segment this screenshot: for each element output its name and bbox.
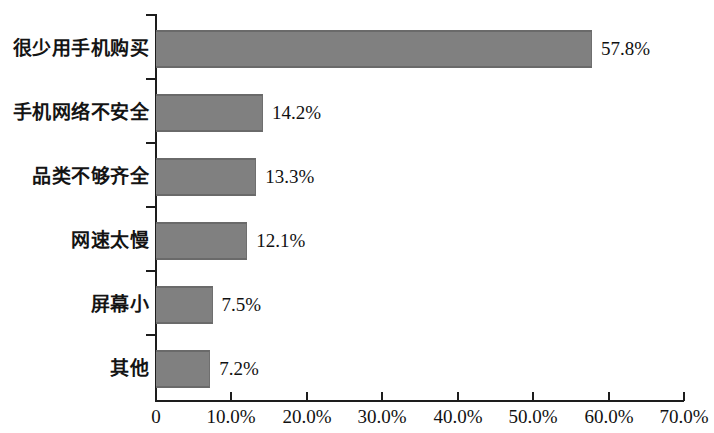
category-label: 手机网络不安全 — [13, 94, 150, 132]
x-axis-tick — [306, 392, 308, 401]
category-label: 其他 — [110, 350, 149, 388]
bar-segment[interactable] — [156, 222, 247, 260]
category-label: 网速太慢 — [71, 222, 149, 260]
bar-value-label: 7.5% — [222, 286, 262, 324]
category-label: 品类不够齐全 — [32, 158, 149, 196]
bar-row: 手机网络不安全 14.2% — [0, 94, 714, 132]
y-axis-line — [155, 14, 157, 402]
bar-value-label: 57.8% — [601, 30, 650, 68]
category-label: 屏幕小 — [91, 286, 150, 324]
bar-segment[interactable] — [156, 94, 263, 132]
bar-row: 网速太慢 12.1% — [0, 222, 714, 260]
x-axis-tick — [381, 392, 383, 401]
bar-segment[interactable] — [156, 286, 213, 324]
bar-segment[interactable] — [156, 30, 592, 68]
x-axis-tick-label: 70.0% — [639, 406, 714, 428]
bar-segment[interactable] — [156, 350, 210, 388]
y-axis-tick — [146, 14, 155, 16]
bar-value-label: 14.2% — [272, 94, 321, 132]
bar-chart: 很少用手机购买 57.8% 手机网络不安全 14.2% 品类不够齐全 13.3%… — [0, 0, 714, 433]
x-axis-tick — [683, 392, 685, 401]
bar-value-label: 7.2% — [219, 350, 259, 388]
x-axis-tick — [457, 392, 459, 401]
bar-row: 品类不够齐全 13.3% — [0, 158, 714, 196]
bar-value-label: 12.1% — [256, 222, 305, 260]
x-axis-line — [155, 400, 684, 402]
bar-row: 其他 7.2% — [0, 350, 714, 388]
x-axis-tick — [230, 392, 232, 401]
y-axis-tick — [146, 78, 155, 80]
y-axis-tick — [146, 270, 155, 272]
y-axis-tick — [146, 334, 155, 336]
x-axis-tick — [608, 392, 610, 401]
bar-row: 很少用手机购买 57.8% — [0, 30, 714, 68]
y-axis-tick — [146, 206, 155, 208]
x-axis-tick — [532, 392, 534, 401]
bar-segment[interactable] — [156, 158, 256, 196]
bar-row: 屏幕小 7.5% — [0, 286, 714, 324]
bar-value-label: 13.3% — [265, 158, 314, 196]
category-label: 很少用手机购买 — [13, 30, 150, 68]
x-axis-tick — [155, 392, 157, 401]
y-axis-tick — [146, 142, 155, 144]
